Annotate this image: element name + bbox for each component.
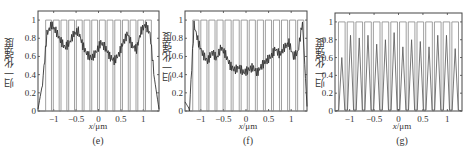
y-axis-label-e: 归一化强度 — [2, 38, 17, 88]
plot-frame — [38, 11, 159, 111]
caption-e: (e) — [83, 135, 113, 146]
caption-f: (f) — [233, 135, 263, 146]
y-axis-label-g: 归一化强度 — [313, 38, 328, 88]
y-tick-label: 0.4 — [25, 70, 37, 80]
y-tick-label: 0.8 — [25, 33, 37, 43]
y-tick-label: 0.2 — [322, 88, 333, 98]
x-tick-label: 1 — [141, 114, 146, 124]
x-tick-label: −1 — [345, 114, 355, 124]
x-axis-label-g: x/μm — [372, 121, 432, 131]
grating-square-wave — [185, 20, 307, 111]
x-tick-label: 1 — [289, 114, 294, 124]
chart-panel-f: 00.20.40.60.81−1−0.500.51 归一化强度 x/μm (f) — [150, 0, 315, 153]
y-tick-label: 1 — [329, 17, 334, 27]
plot-frame — [185, 11, 307, 111]
intensity-curve — [185, 21, 307, 111]
chart-panel-g: 00.20.40.60.81−1−0.500.51 归一化强度 x/μm (g) — [310, 0, 471, 153]
caption-g: (g) — [387, 135, 417, 146]
x-tick-label: −1 — [49, 114, 59, 124]
y-tick-label: 0.6 — [25, 51, 37, 61]
x-axis-label-e: x/μm — [68, 121, 128, 131]
x-tick-label: −1 — [196, 114, 206, 124]
x-axis-label-f: x/μm — [218, 121, 278, 131]
y-axis-label-f: 归一化强度 — [160, 32, 175, 82]
y-tick-label: 0 — [329, 106, 334, 116]
grating-square-wave — [335, 22, 462, 111]
x-tick-label: 1 — [445, 114, 450, 124]
intensity-curve — [38, 22, 159, 109]
y-tick-label: 0.2 — [25, 88, 36, 98]
y-tick-label: 1 — [32, 15, 37, 25]
y-tick-label: 1 — [179, 15, 184, 25]
y-tick-label: 0 — [179, 106, 184, 116]
y-tick-label: 0 — [32, 106, 37, 116]
y-tick-label: 0.2 — [172, 88, 183, 98]
chart-panel-e: 00.20.40.60.81−1−0.500.51 归一化强度 x/μm (e) — [0, 0, 160, 153]
